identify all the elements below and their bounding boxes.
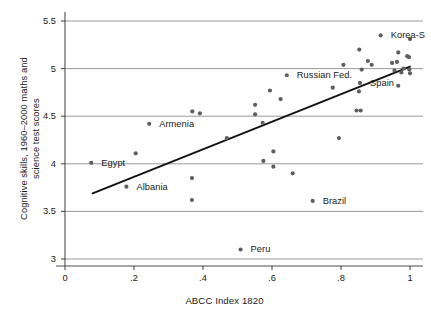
data-point	[147, 122, 151, 126]
data-point	[360, 67, 364, 71]
data-point	[359, 108, 363, 112]
x-axis-tick-label: .8	[337, 273, 345, 283]
data-point	[134, 151, 138, 155]
data-point	[390, 61, 394, 65]
x-axis-tick-label: 0	[62, 273, 67, 283]
y-axis-tick-label: 5	[28, 64, 56, 74]
data-point	[261, 121, 265, 125]
data-point	[408, 71, 412, 75]
plot-area: 33.544.555.50.2.4.6.81EgyptAlbaniaArmeni…	[0, 0, 431, 314]
y-axis-tick-label: 5.5	[28, 16, 56, 26]
data-point	[253, 112, 257, 116]
data-point	[395, 60, 399, 64]
data-point	[331, 86, 335, 90]
data-point	[198, 111, 202, 115]
data-point	[225, 136, 229, 140]
scatter-plot-figure: Cognitive skills, 1960–2000 maths and sc…	[0, 0, 431, 314]
data-point	[396, 50, 400, 54]
y-axis-tick-label: 3.5	[28, 206, 56, 216]
point-label: Peru	[251, 244, 271, 254]
data-point	[366, 59, 370, 63]
regression-line	[93, 67, 410, 194]
data-point	[271, 149, 275, 153]
data-point	[354, 108, 358, 112]
data-point	[396, 84, 400, 88]
point-label: Russian Fed.	[297, 70, 352, 80]
data-point	[279, 97, 283, 101]
data-point	[370, 63, 374, 67]
data-point	[261, 159, 265, 163]
data-point	[311, 199, 315, 203]
data-point	[407, 67, 411, 71]
data-point	[190, 198, 194, 202]
data-point	[253, 103, 257, 107]
data-point	[190, 176, 194, 180]
point-label: Egypt	[101, 158, 125, 168]
x-axis-tick-label: 1	[407, 273, 412, 283]
data-point	[379, 33, 383, 37]
data-point	[268, 88, 272, 92]
data-point	[239, 247, 243, 251]
x-axis-tick-label: .4	[199, 273, 207, 283]
data-point	[124, 185, 128, 189]
y-axis-tick-label: 4	[28, 159, 56, 169]
data-point	[285, 73, 289, 77]
data-point	[392, 68, 396, 72]
x-axis-tick-label: .2	[130, 273, 138, 283]
data-point	[271, 165, 275, 169]
plot-svg	[0, 0, 431, 314]
data-point	[357, 47, 361, 51]
data-point	[358, 81, 362, 85]
data-point	[357, 89, 361, 93]
data-point	[399, 70, 403, 74]
data-point	[341, 63, 345, 67]
data-point	[190, 109, 194, 113]
point-label: Korea-S	[391, 30, 425, 40]
data-point	[337, 136, 341, 140]
point-label: Armenia	[159, 119, 194, 129]
point-label: Albania	[136, 182, 167, 192]
point-label: Spain	[370, 78, 394, 88]
data-point	[407, 55, 411, 59]
data-point	[89, 161, 93, 165]
data-point	[401, 67, 405, 71]
data-point	[291, 171, 295, 175]
y-axis-tick-label: 3	[28, 254, 56, 264]
x-axis-tick-label: .6	[268, 273, 276, 283]
point-label: Brazil	[323, 196, 347, 206]
y-axis-tick-label: 4.5	[28, 111, 56, 121]
